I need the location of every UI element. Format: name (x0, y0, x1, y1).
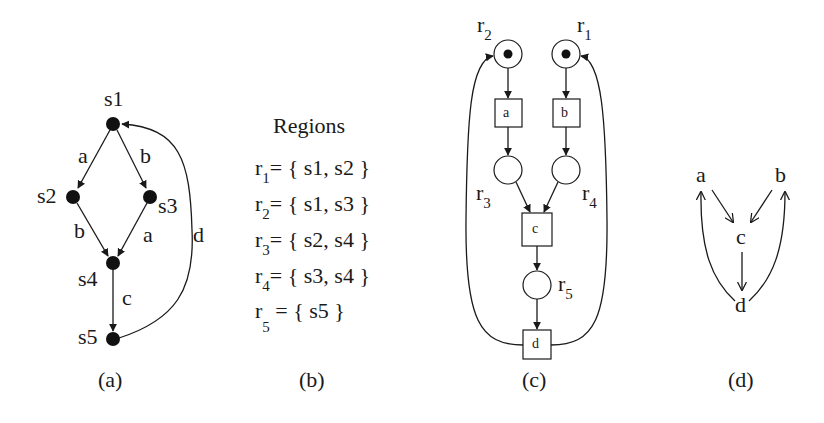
region-r3: r3= { s2, s4 } (255, 229, 370, 251)
caption-b: (b) (299, 369, 325, 391)
edge-label-a2: a (143, 224, 153, 246)
edge-d-a (701, 192, 735, 301)
edge-b-c (751, 190, 772, 222)
node-label-a: a (696, 164, 706, 186)
caption-c: (c) (522, 369, 546, 391)
state-node-s5 (106, 332, 120, 346)
transition-label-b: b (561, 106, 568, 120)
edge-d-b (749, 192, 785, 301)
place-label-r5: r5 (558, 273, 573, 295)
state-node-s2 (66, 190, 80, 204)
region-r4: r4= { s3, s4 } (255, 265, 370, 287)
node-label-d: d (735, 294, 746, 316)
node-label-b: b (775, 164, 786, 186)
state-node-s3 (143, 190, 157, 204)
place-r3 (494, 156, 522, 184)
state-node-s4 (106, 256, 120, 270)
place-label-r4: r4 (582, 182, 597, 204)
edge-label-a: a (78, 145, 88, 167)
edge-label-b: b (140, 145, 151, 167)
state-label-s5: s5 (78, 326, 98, 348)
state-label-s3: s3 (158, 195, 178, 217)
state-node-s1 (106, 117, 120, 131)
edge-label-d: d (193, 224, 204, 246)
region-r1: r1= { s1, s2 } (255, 157, 370, 179)
state-label-s1: s1 (104, 88, 124, 110)
place-label-r1: r1 (577, 14, 592, 36)
regions-title: Regions (273, 115, 345, 137)
place-label-r3: r3 (476, 182, 491, 204)
edge-a-c (712, 190, 733, 222)
edge-label-b2: b (74, 220, 85, 242)
caption-a: (a) (98, 369, 122, 391)
node-label-c: c (736, 226, 746, 248)
state-label-s4: s4 (78, 268, 98, 290)
transition-label-a: a (503, 106, 509, 120)
figure-canvas (0, 0, 824, 423)
place-label-r2: r2 (477, 14, 492, 36)
state-label-s2: s2 (37, 185, 57, 207)
arc-r3-c (516, 182, 530, 212)
region-r5: r5 = { s5 } (255, 300, 345, 322)
region-r2: r2= { s1, s3 } (255, 193, 370, 215)
caption-d: (d) (728, 369, 754, 391)
place-r5 (523, 271, 551, 299)
arc-r4-c (544, 182, 558, 212)
token-r1 (562, 50, 571, 59)
place-r4 (552, 156, 580, 184)
edge-label-c: c (122, 287, 132, 309)
token-r2 (504, 50, 513, 59)
transition-label-d: d (532, 337, 539, 351)
transition-label-c: c (532, 222, 538, 236)
